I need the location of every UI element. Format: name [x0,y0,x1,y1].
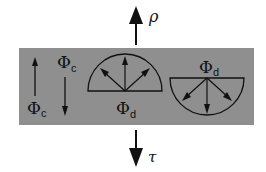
phi-c-right-symbol: Φ [57,52,71,72]
transmission-arrow [129,130,143,167]
phi-c-right-subscript: c [71,62,77,74]
phi-d-upper-subscript: d [130,108,136,120]
reflection-arrow [129,6,143,45]
phi-c-left-subscript: c [41,107,47,119]
phi-d-lower-subscript: d [213,66,219,78]
phi-d-upper-symbol: Φ [116,98,130,118]
reflection-label: ρ [148,7,159,26]
transmission-label: τ [148,148,157,166]
phi-d-lower-symbol: Φ [199,57,213,77]
flux-diagram: ρ τ Φ c Φ c Φ d Φ d [0,0,266,172]
phi-c-left-symbol: Φ [27,98,41,118]
